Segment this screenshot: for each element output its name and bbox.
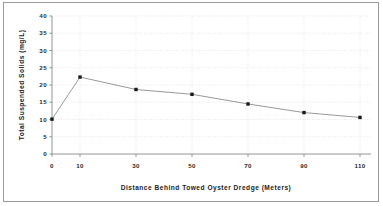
chart-figure: 0510152025303540 01030507090110 Distance… (0, 0, 383, 206)
y-tick-label: 5 (43, 133, 47, 140)
data-series-line (52, 77, 360, 119)
x-tick-label: 10 (76, 162, 84, 169)
y-tick-label: 15 (39, 98, 47, 105)
x-tick-label: 50 (188, 162, 196, 169)
x-axis-tick-labels: 01030507090110 (50, 162, 366, 169)
y-tick-label: 10 (39, 116, 47, 123)
data-point-marker (50, 117, 53, 120)
data-point-marker (190, 93, 193, 96)
x-tick-label: 90 (300, 162, 308, 169)
x-tick-label: 110 (354, 162, 365, 169)
data-point-marker (358, 116, 361, 119)
data-point-marker (78, 75, 81, 78)
y-tick-label: 20 (39, 81, 47, 88)
line-chart: 0510152025303540 01030507090110 Distance… (0, 0, 383, 206)
x-tick-label: 0 (50, 162, 54, 169)
x-tick-label: 70 (244, 162, 252, 169)
y-axis-tick-labels: 0510152025303540 (39, 12, 47, 157)
x-tick-label: 30 (132, 162, 140, 169)
horizontal-gridlines (52, 16, 371, 137)
data-point-marker (302, 111, 305, 114)
x-axis-title: Distance Behind Towed Oyster Dredge (Met… (121, 184, 292, 192)
data-point-markers (50, 75, 361, 120)
y-tick-label: 0 (43, 150, 47, 157)
y-axis-title: Total Suspended Solids (mg/L) (18, 30, 26, 141)
y-tick-label: 40 (39, 12, 47, 19)
data-point-marker (246, 102, 249, 105)
axis-lines (52, 16, 371, 154)
y-tick-label: 25 (39, 64, 47, 71)
data-point-marker (134, 88, 137, 91)
y-tick-label: 35 (39, 29, 47, 36)
y-tick-label: 30 (39, 47, 47, 54)
